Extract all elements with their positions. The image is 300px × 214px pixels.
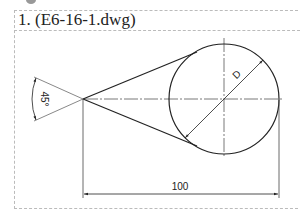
cad-drawing: 45° D 100	[0, 0, 300, 214]
angle-label: 45°	[39, 91, 50, 106]
center-lines	[84, 38, 283, 156]
length-label: 100	[172, 181, 189, 192]
diameter-label: D	[230, 68, 243, 81]
angle-arc	[32, 78, 36, 120]
